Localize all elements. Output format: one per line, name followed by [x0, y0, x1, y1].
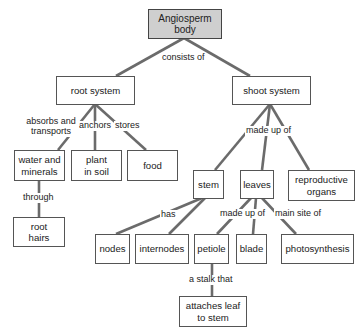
- concept-map: consists of absorbs and transports ancho…: [0, 0, 358, 336]
- link-label-consists-of: consists of: [161, 53, 206, 63]
- link-label-through: through: [22, 193, 55, 203]
- node-attaches-leaf-to-stem: attaches leaf to stem: [179, 296, 247, 327]
- node-water-minerals: water and minerals: [14, 150, 65, 181]
- node-internodes-text: internodes: [140, 243, 185, 254]
- node-photosynthesis-text: photosynthesis: [286, 243, 350, 254]
- node-stem-text: stem: [198, 179, 219, 190]
- node-internodes: internodes: [135, 234, 189, 264]
- node-root-hairs: root hairs: [13, 217, 65, 247]
- link-label-main-site-of: main site of: [274, 209, 322, 219]
- node-petiole: petiole: [194, 234, 229, 264]
- node-photosynthesis: photosynthesis: [281, 234, 354, 264]
- node-root-system: root system: [56, 76, 135, 105]
- edge-shoot-repro: [270, 104, 309, 170]
- node-plant-in-soil-text: plant in soil: [82, 154, 111, 176]
- link-label-stores: stores: [114, 121, 141, 131]
- link-label-stalk-that: a stalk that: [188, 275, 234, 285]
- node-root-system-text: root system: [71, 85, 121, 96]
- link-label-made-up-of-leaves: made up of: [219, 209, 266, 219]
- node-angiosperm-body-text: Angiosperm body: [151, 13, 219, 36]
- node-attaches-leaf-to-stem-text: attaches leaf to stem: [184, 300, 242, 322]
- node-nodes-text: nodes: [99, 243, 125, 254]
- node-stem: stem: [193, 170, 224, 199]
- link-label-absorbs-transports-text: absorbs and transports: [26, 116, 76, 136]
- node-reproductive-organs: reproductive organs: [288, 170, 355, 201]
- node-nodes: nodes: [95, 234, 130, 264]
- node-root-hairs-text: root hairs: [26, 221, 52, 243]
- node-blade-text: blade: [240, 243, 263, 254]
- link-label-has: has: [160, 210, 177, 220]
- node-food-text: food: [143, 160, 162, 171]
- node-leaves-text: leaves: [243, 179, 271, 190]
- node-angiosperm-body: Angiosperm body: [148, 9, 222, 39]
- link-label-anchors: anchors: [78, 121, 112, 131]
- node-blade: blade: [236, 234, 267, 264]
- link-label-absorbs-transports: absorbs and transports: [24, 117, 78, 137]
- node-leaves: leaves: [240, 170, 274, 199]
- link-label-made-up-of-shoot: made up of: [245, 126, 292, 136]
- node-shoot-system-text: shoot system: [243, 85, 300, 96]
- node-petiole-text: petiole: [197, 243, 225, 254]
- node-plant-in-soil: plant in soil: [71, 150, 122, 181]
- edge-stem-nodes: [116, 198, 202, 234]
- node-food: food: [127, 150, 178, 181]
- node-shoot-system: shoot system: [232, 76, 311, 105]
- node-reproductive-organs-text: reproductive organs: [291, 174, 352, 196]
- node-water-minerals-text: water and minerals: [17, 154, 62, 176]
- edge-shoot-stem: [215, 104, 270, 170]
